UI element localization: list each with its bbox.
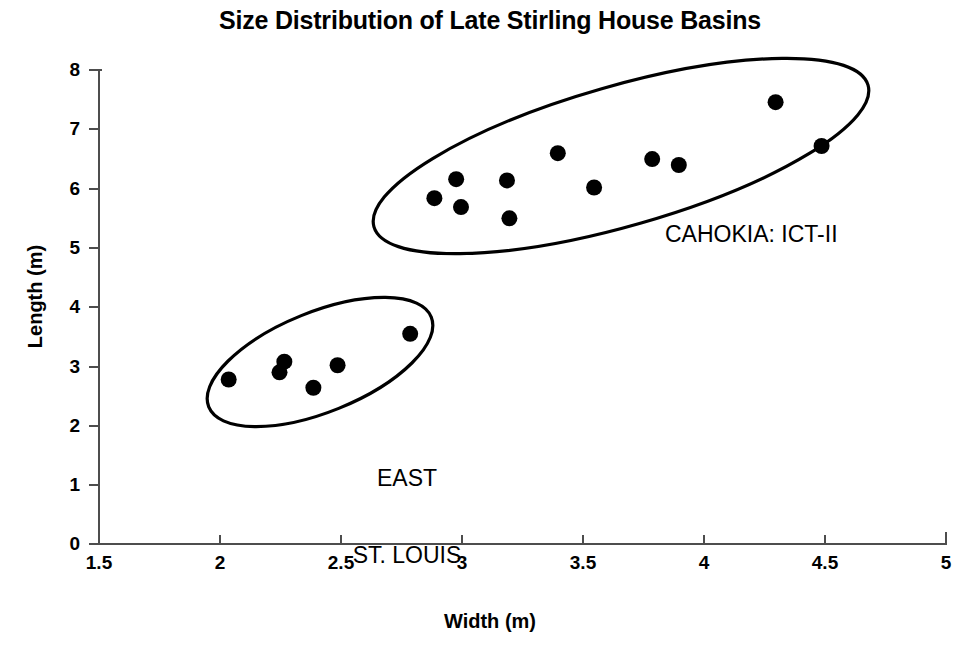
data-point — [426, 190, 442, 206]
data-point — [671, 157, 687, 173]
data-point — [402, 326, 418, 342]
cluster-label-east-st-louis: EAST ST. LOUIS — [332, 414, 482, 620]
data-point — [501, 210, 517, 226]
data-point — [448, 171, 464, 187]
data-point — [330, 357, 346, 373]
data-point — [221, 371, 237, 387]
data-point — [644, 151, 660, 167]
data-point — [550, 145, 566, 161]
plot-area — [0, 0, 980, 661]
data-point — [814, 138, 830, 154]
data-point — [586, 180, 602, 196]
chart-figure: Size Distribution of Late Stirling House… — [0, 0, 980, 661]
cluster-label-cahokia: CAHOKIA: ICT-II — [665, 222, 838, 248]
data-point — [499, 172, 515, 188]
cluster-label-east-line1: EAST — [332, 466, 482, 492]
data-point — [768, 94, 784, 110]
cluster-label-east-line2: ST. LOUIS — [332, 543, 482, 569]
enclosure-cahokia — [355, 18, 888, 294]
data-point — [305, 380, 321, 396]
data-point — [272, 364, 288, 380]
data-point — [453, 199, 469, 215]
